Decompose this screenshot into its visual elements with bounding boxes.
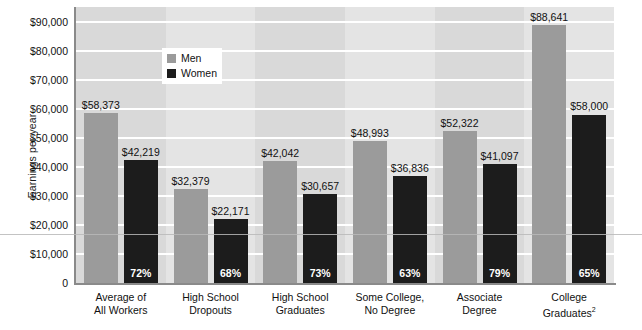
bar-value-label-men: $58,373	[82, 99, 120, 111]
bar-value-label-men: $32,379	[172, 175, 210, 187]
bar-men	[263, 161, 297, 283]
bar-value-label-women: $22,171	[212, 205, 250, 217]
y-axis-tick-label: $50,000	[30, 132, 68, 144]
footnote-marker: 2	[592, 306, 596, 313]
bar-women	[572, 115, 606, 284]
bar-ratio-label-women: 72%	[130, 267, 151, 279]
bar-women	[483, 164, 517, 283]
earnings-by-education-bar-chart: Earnings per year 0$10,000$20,000$30,000…	[0, 0, 642, 330]
y-axis-tick-label: $70,000	[30, 74, 68, 86]
x-axis-category-label: High SchoolGraduates	[272, 291, 329, 316]
legend-item-women: Women	[167, 66, 218, 81]
bar-ratio-label-women: 73%	[310, 267, 331, 279]
category-label-line-2: Degree	[457, 304, 503, 317]
category-label-line-2: All Workers	[94, 304, 147, 317]
legend-item-men: Men	[167, 51, 218, 66]
bar-value-label-men: $88,641	[530, 11, 568, 23]
legend-label-men: Men	[181, 53, 201, 64]
y-axis-tick-label: $80,000	[30, 45, 68, 57]
x-axis-category-label: Some College,No Degree	[355, 291, 424, 316]
category-label-line-2: Graduates	[272, 304, 329, 317]
bar-value-label-women: $41,097	[481, 150, 519, 162]
legend: Men Women	[162, 48, 222, 84]
bar-ratio-label-women: 79%	[489, 267, 510, 279]
bar-value-label-women: $58,000	[570, 100, 608, 112]
plot-area	[76, 7, 614, 283]
y-axis-tick-label: $10,000	[30, 248, 68, 260]
bar-value-label-men: $42,042	[261, 147, 299, 159]
legend-swatch-men-icon	[167, 54, 176, 63]
horizontal-reference-rule	[0, 234, 642, 235]
category-label-line-2: Dropouts	[182, 304, 239, 317]
bar-ratio-label-women: 68%	[220, 267, 241, 279]
x-axis-line	[74, 283, 616, 285]
bar-women	[124, 160, 158, 283]
bar-value-label-women: $30,657	[301, 180, 339, 192]
bar-ratio-label-women: 63%	[399, 267, 420, 279]
category-label-line-2: No Degree	[355, 304, 424, 317]
x-axis-category-label: High SchoolDropouts	[182, 291, 239, 316]
category-label-line-1: High School	[182, 291, 239, 304]
y-axis-tick-label: $90,000	[30, 16, 68, 28]
bar-men	[443, 131, 477, 283]
bar-men	[174, 189, 208, 283]
bar-value-label-men: $52,322	[441, 117, 479, 129]
bar-value-label-men: $48,993	[351, 127, 389, 139]
y-axis-tick-label: $60,000	[30, 103, 68, 115]
x-axis-category-label: AssociateDegree	[457, 291, 503, 316]
category-label-line-2: Graduates2	[543, 304, 596, 319]
bar-men	[84, 113, 118, 283]
y-axis-tick-labels: 0$10,000$20,000$30,000$40,000$50,000$60,…	[0, 0, 72, 330]
y-axis-line	[74, 7, 76, 284]
category-label-line-1: Some College,	[355, 291, 424, 304]
bar-value-label-women: $42,219	[122, 146, 160, 158]
legend-swatch-women-icon	[167, 69, 176, 78]
bar-value-label-women: $36,836	[391, 162, 429, 174]
legend-label-women: Women	[181, 68, 217, 79]
category-label-line-1: Associate	[457, 291, 503, 304]
y-axis-tick-label: 0	[62, 277, 68, 289]
bar-ratio-label-women: 65%	[579, 267, 600, 279]
bar-men	[353, 141, 387, 283]
category-label-line-1: College	[543, 291, 596, 304]
category-label-line-1: High School	[272, 291, 329, 304]
x-axis-category-label: Average ofAll Workers	[94, 291, 147, 316]
y-axis-tick-label: $40,000	[30, 161, 68, 173]
x-axis-category-label: CollegeGraduates2	[543, 291, 596, 319]
bar-men	[532, 25, 566, 283]
y-axis-tick-label: $20,000	[30, 219, 68, 231]
category-label-line-1: Average of	[94, 291, 147, 304]
y-axis-tick-label: $30,000	[30, 190, 68, 202]
